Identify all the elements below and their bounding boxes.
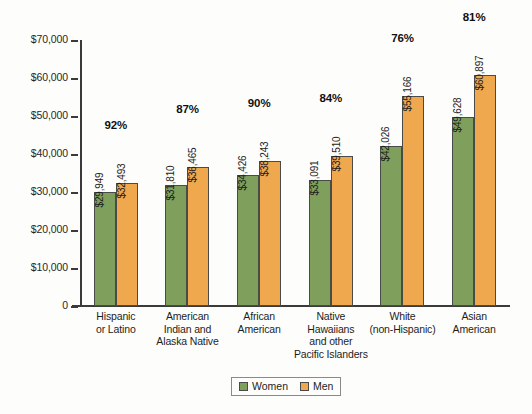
bar-men: $55,166 xyxy=(402,96,424,306)
bar-pair: $49,628$60,897 xyxy=(438,40,510,306)
ratio-percent-label: 76% xyxy=(367,32,439,44)
bar-women: $33,091 xyxy=(309,180,331,306)
y-axis-tick-label: $60,000 xyxy=(31,71,68,83)
x-axis-label-line: Alaska Native xyxy=(140,335,236,348)
bar-men: $39,510 xyxy=(331,156,353,306)
bar-value-label: $60,897 xyxy=(474,55,485,90)
bar-pair: $33,091$39,510 xyxy=(295,40,367,306)
plot-area: $29,949$32,49392%$31,810$36,46587%$34,42… xyxy=(80,40,510,306)
legend-label-women: Women xyxy=(252,380,288,392)
bar-value-label: $29,949 xyxy=(94,173,105,208)
x-axis-category-label: AsianAmerican xyxy=(426,310,522,335)
legend-item-men: Men xyxy=(300,380,333,392)
y-axis-tick-label: $20,000 xyxy=(31,223,68,235)
bar-value-label: $38,243 xyxy=(259,141,270,176)
bar-women: $29,949 xyxy=(94,192,116,306)
bar-value-label: $42,026 xyxy=(380,127,391,162)
y-axis-tick-mark xyxy=(71,154,78,156)
y-axis-tick-mark xyxy=(71,192,78,194)
bar-group: $33,091$39,51084% xyxy=(295,40,367,306)
bar-men: $38,243 xyxy=(259,161,281,306)
ratio-percent-label: 87% xyxy=(152,103,224,115)
y-axis-tick-mark xyxy=(71,116,78,118)
y-axis-tick-mark xyxy=(71,230,78,232)
bar-pair: $42,026$55,166 xyxy=(367,40,439,306)
y-axis-tick-label: $70,000 xyxy=(31,33,68,45)
bar-women: $42,026 xyxy=(380,146,402,306)
bar-value-label: $49,628 xyxy=(452,98,463,133)
y-axis-tick-label: $40,000 xyxy=(31,147,68,159)
x-axis-label-line: Pacific Islanders xyxy=(283,348,379,361)
y-axis-tick-mark xyxy=(71,78,78,80)
chart-page: $70,000$60,000$50,000$40,000$30,000$20,0… xyxy=(0,0,532,414)
bar-value-label: $33,091 xyxy=(309,161,320,196)
bar-group: $49,628$60,89781% xyxy=(438,40,510,306)
bar-value-label: $34,426 xyxy=(237,156,248,191)
bar-men: $60,897 xyxy=(474,75,496,306)
legend-swatch-women-icon xyxy=(239,382,248,391)
bar-women: $49,628 xyxy=(452,117,474,306)
legend-swatch-men-icon xyxy=(300,382,309,391)
y-axis-tick-mark xyxy=(71,268,78,270)
bar-women: $34,426 xyxy=(237,175,259,306)
ratio-percent-label: 92% xyxy=(80,119,152,131)
bar-group: $34,426$38,24390% xyxy=(223,40,295,306)
bar-pair: $29,949$32,493 xyxy=(80,40,152,306)
bar-pair: $31,810$36,465 xyxy=(152,40,224,306)
legend-label-men: Men xyxy=(313,380,333,392)
x-axis-label-line: and other xyxy=(283,335,379,348)
chart-legend: Women Men xyxy=(231,377,341,396)
bar-value-label: $39,510 xyxy=(331,137,342,172)
bar-value-label: $36,465 xyxy=(187,148,198,183)
y-axis-tick-label: $30,000 xyxy=(31,185,68,197)
bar-value-label: $31,810 xyxy=(165,166,176,201)
legend-item-women: Women xyxy=(239,380,288,392)
bar-women: $31,810 xyxy=(165,185,187,306)
bar-men: $32,493 xyxy=(116,183,138,306)
bar-value-label: $32,493 xyxy=(116,163,127,198)
y-axis-tick-mark xyxy=(71,40,78,42)
ratio-percent-label: 81% xyxy=(438,11,510,23)
bar-group: $31,810$36,46587% xyxy=(152,40,224,306)
bar-men: $36,465 xyxy=(187,167,209,306)
y-axis-tick-label: $50,000 xyxy=(31,109,68,121)
x-axis-label-line: American xyxy=(426,323,522,336)
bar-pair: $34,426$38,243 xyxy=(223,40,295,306)
bar-group: $42,026$55,16676% xyxy=(367,40,439,306)
y-axis-tick-mark xyxy=(71,306,78,308)
bar-value-label: $55,166 xyxy=(402,77,413,112)
y-axis-tick-label: $10,000 xyxy=(31,261,68,273)
ratio-percent-label: 84% xyxy=(295,92,367,104)
x-axis-label-line: Asian xyxy=(426,310,522,323)
ratio-percent-label: 90% xyxy=(223,97,295,109)
bar-group: $29,949$32,49392% xyxy=(80,40,152,306)
